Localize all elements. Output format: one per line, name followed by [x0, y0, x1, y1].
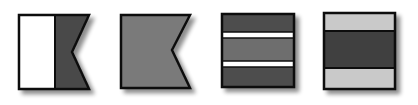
- flag-2-field: [121, 15, 190, 88]
- flag-4-stripe-bottom: [324, 68, 395, 89]
- flag-3-stripe-white-1: [222, 32, 294, 38]
- flag-3-stripe-middle: [222, 38, 294, 61]
- flag-3-stripe-top: [222, 14, 294, 32]
- flag-3-stripe-bottom: [222, 67, 294, 87]
- signal-flags-figure: [0, 0, 418, 105]
- flag-3-striped: [222, 14, 294, 87]
- flag-1-white-dark-swallowtail: [19, 15, 89, 89]
- flag-4-stripe-top: [324, 13, 395, 31]
- flag-2-grey-swallowtail: [121, 15, 190, 88]
- flag-3-stripe-white-2: [222, 61, 294, 67]
- flag-4-striped: [324, 13, 395, 89]
- flag-4-stripe-middle: [324, 31, 395, 68]
- flag-1-hoist: [19, 15, 55, 89]
